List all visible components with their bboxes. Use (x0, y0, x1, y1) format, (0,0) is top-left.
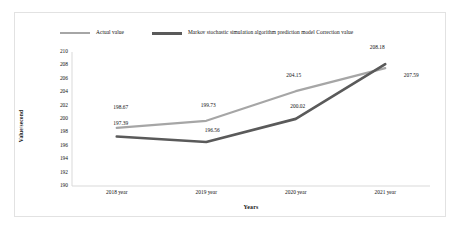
x-axis-title: Years (72, 205, 430, 211)
legend-line-swatch-icon (60, 32, 90, 34)
y-axis-title: Value/second (19, 96, 25, 156)
y-axis-tick-label: 190 (40, 183, 68, 188)
y-axis-tick-label: 196 (40, 143, 68, 148)
legend-entry-actual-value: Actual value (60, 30, 124, 35)
data-point-label: 207.59 (404, 73, 419, 78)
data-point-label: 196.56 (205, 128, 220, 133)
data-point-label: 198.67 (113, 105, 128, 110)
y-axis-tick-label: 200 (40, 116, 68, 121)
chart-legend: Actual value Markov stochastic simulatio… (60, 26, 353, 40)
data-point-label: 199.73 (201, 103, 216, 108)
y-axis-tick-labels: 210208206204202200198196194192190 (40, 52, 68, 186)
y-axis-tick-label: 192 (40, 170, 68, 175)
data-point-label: 204.15 (286, 73, 301, 78)
legend-entry-correction-value: Markov stochastic simulation algorithm p… (152, 30, 353, 35)
y-axis-tick-label: 206 (40, 76, 68, 81)
data-point-label: 197.39 (113, 122, 128, 127)
legend-label-correction-value: Markov stochastic simulation algorithm p… (188, 30, 353, 35)
legend-line-swatch-icon (152, 32, 182, 35)
y-axis-tick-label: 210 (40, 49, 68, 54)
x-axis-tick-label: 2020 year (261, 190, 331, 195)
y-axis-tick-label: 204 (40, 89, 68, 94)
data-labels-layer: 198.67199.73204.15207.59197.39196.56200.… (72, 52, 430, 186)
y-axis-tick-label: 198 (40, 130, 68, 135)
y-axis-tick-label: 194 (40, 156, 68, 161)
y-axis-tick-label: 202 (40, 103, 68, 108)
data-point-label: 200.02 (290, 104, 305, 109)
x-axis-tick-label: 2018 year (82, 190, 152, 195)
x-axis-tick-label: 2019 year (171, 190, 241, 195)
chart-figure: Actual value Markov stochastic simulatio… (0, 0, 460, 229)
x-axis-tick-labels: 2018 year2019 year2020 year2021 year (72, 190, 430, 200)
y-axis-tick-label: 208 (40, 63, 68, 68)
data-point-label: 208.18 (370, 46, 385, 51)
x-axis-tick-label: 2021 year (350, 190, 420, 195)
legend-label-actual-value: Actual value (96, 30, 124, 35)
